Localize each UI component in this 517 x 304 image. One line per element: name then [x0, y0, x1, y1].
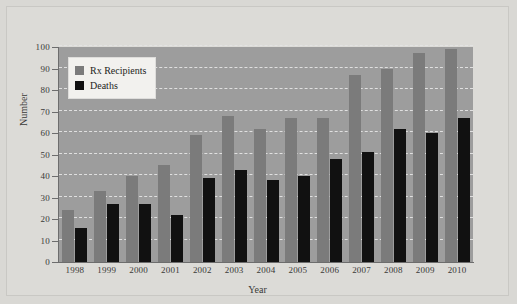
bar-rx-recipients-2001 — [158, 165, 170, 262]
x-tick-label-2008: 2008 — [377, 265, 409, 275]
y-tick-label-40: 40 — [40, 171, 50, 181]
bar-deaths-1999 — [107, 204, 119, 262]
bar-deaths-2004 — [267, 180, 279, 262]
y-tick-30 — [52, 198, 58, 199]
y-axis-title: Number — [18, 93, 29, 126]
bar-deaths-2002 — [203, 178, 215, 262]
chart-page: 0102030405060708090100 19981999200020012… — [0, 0, 517, 304]
y-tick-label-0: 0 — [45, 257, 50, 267]
x-axis-title: Year — [6, 284, 509, 295]
y-axis-tick-labels: 0102030405060708090100 — [6, 6, 50, 298]
bar-deaths-2006 — [330, 159, 342, 262]
bar-rx-recipients-2008 — [381, 69, 393, 263]
bar-rx-recipients-2004 — [254, 129, 266, 262]
legend-swatch-rx-icon — [75, 66, 84, 75]
bar-chart: 0102030405060708090100 19981999200020012… — [6, 6, 509, 298]
bar-deaths-2009 — [426, 133, 438, 262]
gridline-100 — [59, 45, 473, 47]
x-tick-label-1999: 1999 — [91, 265, 123, 275]
y-tick-label-70: 70 — [40, 107, 50, 117]
y-tick-label-20: 20 — [40, 214, 50, 224]
bar-rx-recipients-2007 — [349, 75, 361, 262]
x-tick-label-2010: 2010 — [441, 265, 473, 275]
y-tick-label-100: 100 — [36, 42, 50, 52]
legend-label: Deaths — [90, 80, 118, 91]
bar-deaths-2001 — [171, 215, 183, 262]
bar-rx-recipients-2000 — [126, 176, 138, 262]
chart-legend: Rx RecipientsDeaths — [68, 57, 156, 99]
bar-rx-recipients-2002 — [190, 135, 202, 262]
bar-rx-recipients-2010 — [445, 49, 457, 262]
y-tick-20 — [52, 219, 58, 220]
gridline-60 — [59, 131, 473, 133]
bar-rx-recipients-2005 — [285, 118, 297, 262]
gridline-40 — [59, 174, 473, 176]
x-tick-label-2002: 2002 — [186, 265, 218, 275]
y-tick-100 — [52, 47, 58, 48]
y-tick-label-90: 90 — [40, 64, 50, 74]
y-tick-0 — [52, 262, 58, 263]
x-tick-label-2006: 2006 — [314, 265, 346, 275]
bar-rx-recipients-2009 — [413, 53, 425, 262]
gridline-50 — [59, 153, 473, 155]
y-tick-label-50: 50 — [40, 150, 50, 160]
x-axis-line — [58, 262, 474, 263]
y-tick-label-80: 80 — [40, 85, 50, 95]
legend-label: Rx Recipients — [90, 65, 146, 76]
y-tick-80 — [52, 90, 58, 91]
bar-deaths-1998 — [75, 228, 87, 262]
x-tick-label-2003: 2003 — [218, 265, 250, 275]
bar-rx-recipients-2003 — [222, 116, 234, 262]
x-tick-label-2001: 2001 — [155, 265, 187, 275]
x-tick-label-2005: 2005 — [282, 265, 314, 275]
x-tick-label-2007: 2007 — [346, 265, 378, 275]
bar-rx-recipients-2006 — [317, 118, 329, 262]
bar-rx-recipients-1998 — [62, 210, 74, 262]
gridline-70 — [59, 110, 473, 112]
bar-rx-recipients-1999 — [94, 191, 106, 262]
y-tick-10 — [52, 241, 58, 242]
bar-deaths-2005 — [298, 176, 310, 262]
y-tick-60 — [52, 133, 58, 134]
bar-deaths-2003 — [235, 170, 247, 262]
bar-deaths-2008 — [394, 129, 406, 262]
y-tick-90 — [52, 69, 58, 70]
bar-deaths-2010 — [458, 118, 470, 262]
y-tick-label-60: 60 — [40, 128, 50, 138]
y-tick-label-30: 30 — [40, 193, 50, 203]
legend-swatch-deaths-icon — [75, 81, 84, 90]
x-tick-label-1998: 1998 — [59, 265, 91, 275]
y-tick-label-10: 10 — [40, 236, 50, 246]
bar-deaths-2000 — [139, 204, 151, 262]
y-axis-line — [58, 47, 59, 263]
y-tick-40 — [52, 176, 58, 177]
legend-item-deaths: Deaths — [75, 78, 146, 93]
y-tick-50 — [52, 155, 58, 156]
x-tick-label-2009: 2009 — [409, 265, 441, 275]
x-tick-label-2004: 2004 — [250, 265, 282, 275]
bar-deaths-2007 — [362, 152, 374, 262]
y-tick-70 — [52, 112, 58, 113]
x-tick-label-2000: 2000 — [123, 265, 155, 275]
legend-item-rx: Rx Recipients — [75, 63, 146, 78]
